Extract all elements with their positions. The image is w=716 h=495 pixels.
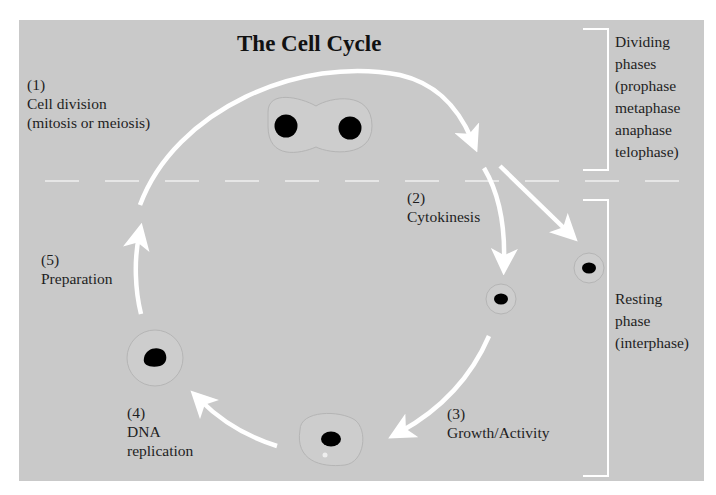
dividing-phases-label: Dividingphases(prophasemetaphaseanaphase… xyxy=(615,31,680,163)
diagram-title: The Cell Cycle xyxy=(237,31,381,57)
nucleus-right xyxy=(339,117,362,140)
step-4-label: (4)DNAreplication xyxy=(127,403,193,460)
bracket-resting xyxy=(583,200,608,476)
step-1-label: (1)Cell division(mitosis or meiosis) xyxy=(27,75,150,132)
step-3-label: (3)Growth/Activity xyxy=(447,404,549,442)
arrow-dna-replication xyxy=(200,400,277,446)
bracket-dividing xyxy=(583,29,608,170)
nucleus-left xyxy=(275,115,298,138)
arrow-cytokinesis xyxy=(484,168,504,262)
step-5-label: (5)Preparation xyxy=(41,250,112,288)
step-2-label: (2)Cytokinesis xyxy=(407,188,480,226)
resting-phase-label: Restingphase(interphase) xyxy=(615,288,689,354)
arrow-to-resting xyxy=(500,166,568,232)
arrow-preparation xyxy=(136,236,141,314)
